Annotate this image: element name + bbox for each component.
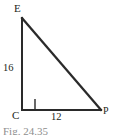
right-angle-marker-icon	[24, 99, 35, 110]
side-length-label-cp: 12	[51, 111, 62, 122]
triangle-side-ep-hypotenuse	[22, 18, 101, 110]
vertex-label-p: P	[103, 105, 109, 116]
side-length-label-ec: 16	[3, 62, 14, 73]
triangle-drawing	[0, 0, 131, 135]
vertex-label-c: C	[12, 110, 19, 121]
vertex-label-e: E	[14, 3, 21, 14]
figure-caption: Fig. 24.35	[3, 126, 128, 135]
geometry-figure: E C P 16 12 Fig. 24.35	[0, 0, 131, 135]
